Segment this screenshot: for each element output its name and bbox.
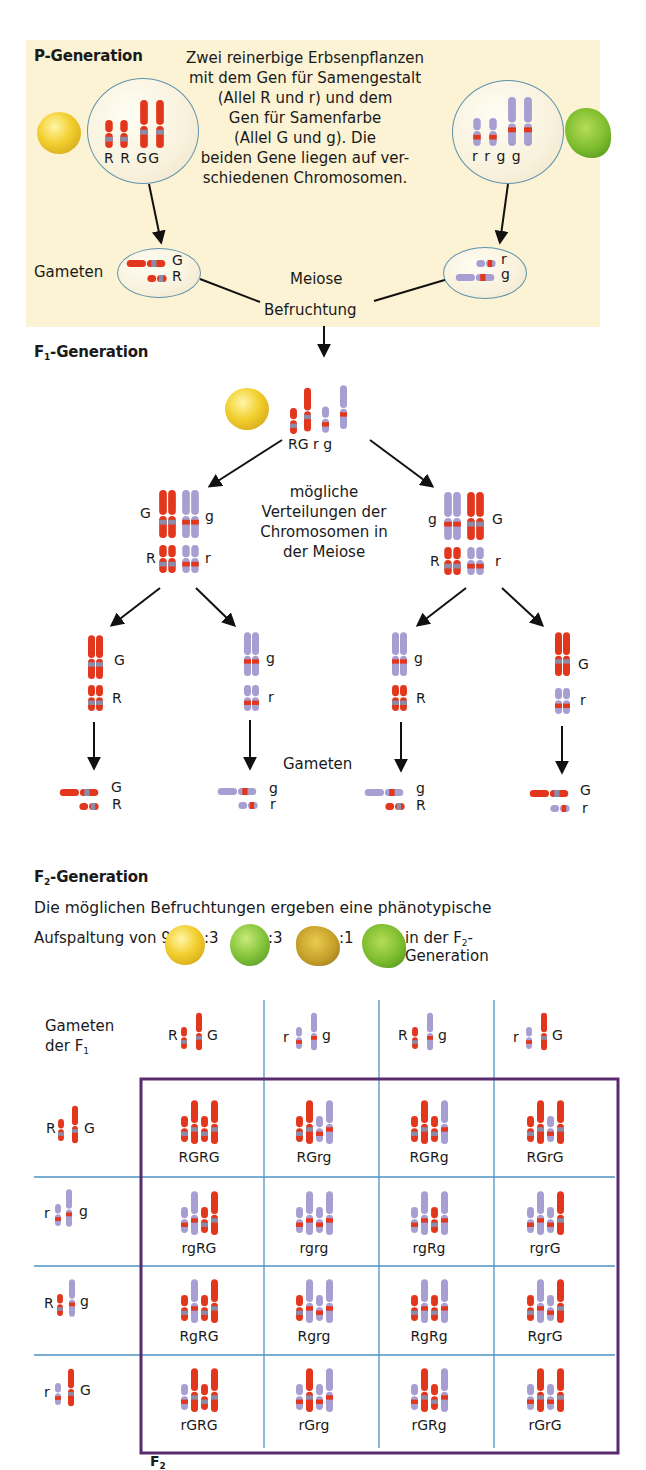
footer-F: F <box>150 1453 159 1469</box>
genotype-label: rGrG <box>500 1417 590 1433</box>
zygote-chromosomes <box>0 0 646 1470</box>
footer-sub: 2 <box>159 1461 165 1470</box>
f2-footer-label: F2 <box>150 1453 165 1470</box>
